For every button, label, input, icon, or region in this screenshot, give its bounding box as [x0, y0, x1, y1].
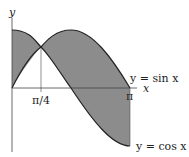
sin-label: y = sin x — [129, 72, 179, 85]
area-between-curves-chart: y x π/4 π y = sin x y = cos x — [0, 0, 189, 157]
cos-label: y = cos x — [135, 140, 187, 153]
y-axis-label: y — [8, 6, 16, 19]
pi-tick: π — [126, 90, 133, 103]
pi-over-4-tick: π/4 — [32, 94, 50, 107]
